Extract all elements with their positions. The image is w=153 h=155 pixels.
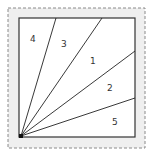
fan-diagram: 4 3 1 2 5 — [0, 0, 153, 155]
region-label-4: 4 — [30, 34, 36, 44]
origin-dot — [19, 134, 23, 138]
region-label-5: 5 — [112, 117, 118, 127]
region-label-1: 1 — [90, 56, 96, 66]
region-label-2: 2 — [107, 83, 113, 93]
region-label-3: 3 — [61, 39, 67, 49]
